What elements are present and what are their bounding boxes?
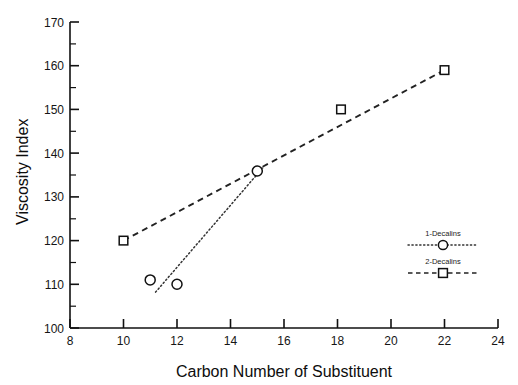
series-2-decalins — [119, 66, 449, 245]
y-axis-title-text: Viscosity Index — [14, 119, 31, 225]
axes — [70, 22, 498, 328]
x-tick-label: 18 — [331, 334, 345, 348]
x-tick-label: 24 — [491, 334, 505, 348]
x-tick-label: 12 — [170, 334, 184, 348]
x-axis-title-text: Carbon Number of Substituent — [176, 363, 393, 380]
viscosity-index-scatter-chart: Viscosity Index Carbon Number of Substit… — [0, 0, 518, 385]
series-2-decalins-trendline — [124, 70, 445, 241]
y-tick-label: 110 — [45, 278, 64, 292]
chart-container: Viscosity Index Carbon Number of Substit… — [0, 0, 518, 385]
series-1-decalins-trendline — [156, 168, 263, 292]
legend-label-1-decalins: 1-Decalins — [425, 229, 461, 238]
x-tick-label: 10 — [117, 334, 131, 348]
x-axis-ticks: 8 10 12 14 16 18 20 22 24 — [67, 319, 505, 348]
legend-marker-square — [439, 269, 448, 278]
data-point-square — [440, 66, 449, 75]
data-point-square — [337, 105, 346, 114]
y-axis-title: Viscosity Index — [14, 119, 31, 225]
data-point-circle — [172, 279, 182, 289]
data-point-circle — [145, 275, 155, 285]
y-tick-label: 150 — [44, 103, 64, 117]
x-tick-label: 16 — [277, 334, 291, 348]
y-axis-ticks: 170 160 150 140 130 120 110 100 — [44, 16, 79, 336]
y-tick-label: 100 — [44, 322, 64, 336]
legend-marker-circle — [438, 240, 447, 249]
x-tick-label: 14 — [224, 334, 238, 348]
y-tick-label: 170 — [44, 16, 64, 30]
x-tick-label: 8 — [67, 334, 74, 348]
x-tick-label: 20 — [384, 334, 398, 348]
data-point-square — [119, 236, 128, 245]
y-tick-label: 120 — [44, 234, 64, 248]
y-tick-label: 140 — [44, 147, 64, 161]
chart-legend: 1-Decalins 2-Decalins — [408, 229, 478, 277]
y-tick-label: 130 — [44, 190, 64, 204]
x-tick-label: 22 — [438, 334, 452, 348]
series-1-decalins — [145, 166, 262, 292]
legend-label-2-decalins: 2-Decalins — [425, 257, 461, 266]
data-point-circle — [252, 166, 262, 176]
y-tick-label: 160 — [44, 59, 64, 73]
